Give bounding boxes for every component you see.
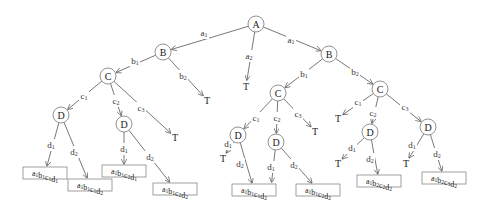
edge-a-b1 xyxy=(172,26,249,49)
node-d: D xyxy=(116,116,132,132)
terminal-node: T xyxy=(204,95,210,106)
node-label: D xyxy=(272,137,279,148)
decision-tree-diagram: a1a2a1b1b2c1c2c3d1d2d1d2b1b2c1c2c3d1d2d1… xyxy=(0,0,481,207)
edges-layer: a1a2a1b1b2c1c2c3d1d2d1d2b1b2c1c2c3d1d2d1… xyxy=(46,26,442,183)
node-d: D xyxy=(53,107,69,123)
leaf-outcome-box: a1b1c1d1 xyxy=(23,167,67,184)
node-label: C xyxy=(105,71,112,82)
leaf-outcome-box: a1b1c2d2 xyxy=(153,183,197,200)
terminal-node: T xyxy=(335,158,341,169)
leaf-outcome-box: a1b1c1d2 xyxy=(68,179,112,196)
node-label: C xyxy=(377,84,384,95)
terminal-node: T xyxy=(172,132,178,143)
node-a: A xyxy=(248,16,264,32)
node-label: C xyxy=(275,88,282,99)
node-c: C xyxy=(100,68,116,84)
node-label: B xyxy=(160,47,167,58)
node-label: B xyxy=(326,49,333,60)
terminal-node: T xyxy=(243,81,249,92)
node-b: B xyxy=(155,44,171,60)
leaf-outcome-box: a1b1c2d2 xyxy=(296,184,340,201)
node-label: A xyxy=(252,19,260,30)
node-c: C xyxy=(270,85,286,101)
terminal-node: T xyxy=(312,126,318,137)
node-label: D xyxy=(120,119,127,130)
node-label: D xyxy=(424,122,431,133)
node-label: D xyxy=(57,110,64,121)
leaf-outcome-box: a1b1c1d2 xyxy=(232,184,276,201)
terminal-node: T xyxy=(220,153,226,164)
node-label: D xyxy=(234,130,241,141)
node-b: B xyxy=(321,46,337,62)
node-label: D xyxy=(366,127,373,138)
leaf-outcome-box: a1b2c3d2 xyxy=(422,172,466,189)
node-c: C xyxy=(372,81,388,97)
node-d: D xyxy=(362,124,378,140)
node-d: D xyxy=(420,119,436,135)
leaf-outcome-box: a1b2c2d2 xyxy=(357,175,401,192)
terminal-node: T xyxy=(403,158,409,169)
terminal-node: T xyxy=(335,113,341,124)
node-d: D xyxy=(268,134,284,150)
leaves-layer: a1b1c1d1a1b1c1d2a1b1c2d1a1b1c2d2a1b1c1d2… xyxy=(23,165,466,201)
node-d: D xyxy=(230,127,246,143)
